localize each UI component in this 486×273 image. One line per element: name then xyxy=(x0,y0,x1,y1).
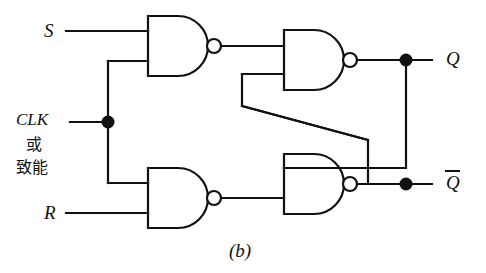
nand-gate-s-bubble-circle xyxy=(207,39,221,53)
output-label-q: Q xyxy=(446,48,460,70)
input-label-clk: CLK xyxy=(16,110,48,130)
q-junction-dot xyxy=(400,54,413,67)
qbar-feedback-leg xyxy=(242,106,368,140)
figure-caption: (b) xyxy=(229,240,251,262)
nand-gate-s-body xyxy=(148,16,208,76)
nand-gate-r-body xyxy=(148,168,208,228)
input-label-clk-line2: 或 xyxy=(26,131,42,155)
qbar-junction-dot xyxy=(400,178,413,191)
nand-gate-qbar-body xyxy=(284,154,344,214)
input-label-clk-line3: 致能 xyxy=(16,154,48,178)
nand-gate-r-bubble-circle xyxy=(207,191,221,205)
output-label-qbar: Q xyxy=(446,172,460,194)
nand-gate-q-bubble-circle xyxy=(343,53,357,67)
input-label-r: R xyxy=(44,202,56,224)
nand-gate-q-body xyxy=(284,30,344,90)
clk-junction-dot xyxy=(102,116,115,129)
schematic-svg xyxy=(0,0,486,273)
nand-gate-qbar-bubble-circle xyxy=(343,177,357,191)
figure-canvas: S CLK 或 致能 R Q Q (b) xyxy=(0,0,486,273)
input-label-s: S xyxy=(44,20,54,42)
qbar-overbar xyxy=(445,170,460,172)
